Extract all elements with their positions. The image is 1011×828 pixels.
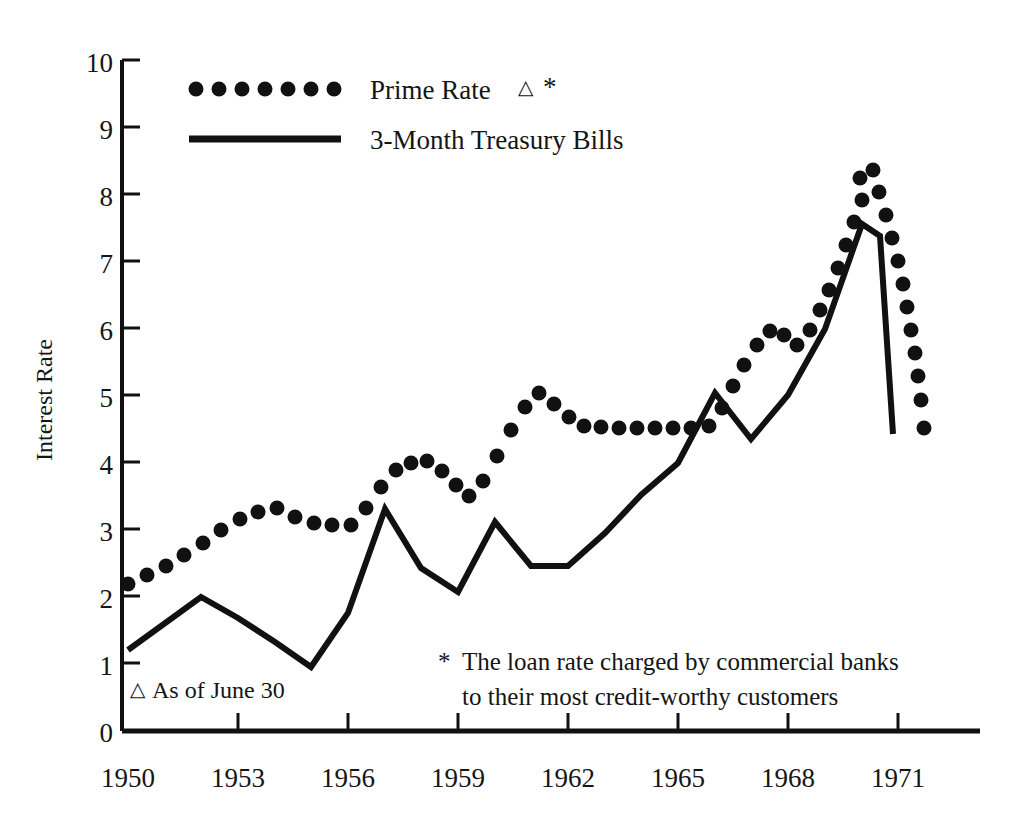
x-tick-label-1959: 1959 (431, 763, 485, 793)
footnote-line-1: The loan rate charged by commercial bank… (462, 648, 899, 675)
x-tick-label-1965: 1965 (651, 763, 705, 793)
legend-label-treasury-bills: 3-Month Treasury Bills (370, 125, 624, 155)
legend-swatch-prime-rate (189, 82, 342, 97)
annotation-footnote: * The loan rate charged by commercial ba… (438, 648, 899, 710)
x-axis-ticks (238, 713, 898, 731)
y-axis-title: Interest Rate (31, 339, 57, 461)
y-tick-label-6: 6 (100, 316, 114, 346)
asterisk-icon-footnote: * (438, 648, 451, 675)
triangle-icon-legend: △ (518, 76, 534, 98)
chart-container: 10 9 8 7 6 5 4 3 2 1 0 1950 1953 1956 19… (0, 0, 1011, 828)
footnote-line-2: to their most credit-worthy customers (462, 683, 838, 710)
x-tick-label-1968: 1968 (761, 763, 815, 793)
series-treasury-bills-line (128, 224, 893, 667)
y-tick-label-8: 8 (100, 182, 114, 212)
y-tick-label-9: 9 (100, 115, 114, 145)
interest-rate-line-chart: 10 9 8 7 6 5 4 3 2 1 0 1950 1953 1956 19… (0, 0, 1011, 828)
y-tick-label-0: 0 (100, 718, 114, 748)
x-tick-label-1950: 1950 (101, 763, 155, 793)
asterisk-icon-legend: * (543, 72, 557, 102)
y-axis-tick-labels: 10 9 8 7 6 5 4 3 2 1 0 (86, 48, 114, 748)
x-tick-label-1953: 1953 (211, 763, 265, 793)
axes-group (122, 60, 980, 731)
y-tick-label-4: 4 (100, 450, 114, 480)
y-tick-label-3: 3 (100, 517, 114, 547)
y-tick-label-1: 1 (100, 651, 114, 681)
series-prime-rate-dots (121, 163, 932, 592)
annotation-as-of: △ As of June 30 (130, 677, 285, 703)
y-tick-label-5: 5 (100, 383, 114, 413)
x-tick-label-1971: 1971 (871, 763, 925, 793)
legend-label-prime-rate: Prime Rate (370, 75, 491, 105)
y-tick-label-10: 10 (86, 48, 113, 78)
chart-legend: Prime Rate △ * 3-Month Treasury Bills (189, 72, 624, 155)
y-tick-label-7: 7 (100, 249, 114, 279)
triangle-icon-annotation: △ (130, 678, 146, 700)
y-axis-ticks (122, 60, 140, 663)
y-tick-label-2: 2 (100, 584, 114, 614)
x-tick-label-1962: 1962 (541, 763, 595, 793)
x-axis-tick-labels: 1950 1953 1956 1959 1962 1965 1968 1971 (101, 763, 925, 793)
x-tick-label-1956: 1956 (321, 763, 375, 793)
as-of-text: As of June 30 (152, 677, 285, 703)
